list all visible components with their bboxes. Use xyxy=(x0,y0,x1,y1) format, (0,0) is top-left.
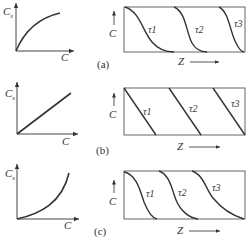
curve-label-3: τ3 xyxy=(231,98,240,109)
x-axis-label: C xyxy=(64,219,72,231)
profile-plot-c: τ1 τ2 τ3 C Z xyxy=(109,171,245,236)
profile-plot-b: τ1 τ2 τ3 C Z xyxy=(109,88,245,152)
figure: Cs C τ1 τ2 τ3 C Z (a) Cs C xyxy=(0,0,250,243)
curve-label-1: τ1 xyxy=(148,24,157,35)
x-axis-label: C xyxy=(62,135,70,147)
panel-b: Cs C τ1 τ2 τ3 C Z (b) xyxy=(5,82,245,157)
isotherm-plot-b: Cs C xyxy=(5,82,78,147)
caption-c: (c) xyxy=(94,225,107,238)
curve-label-2: τ2 xyxy=(195,24,204,35)
profile-y-label: C xyxy=(109,27,117,39)
isotherm-curve xyxy=(16,13,60,51)
isotherm-curve xyxy=(17,173,69,219)
profile-frame xyxy=(124,7,245,52)
y-axis-label: Cs xyxy=(5,87,15,102)
y-axis-label: Cs xyxy=(3,5,13,20)
y-axis-label: Cs xyxy=(5,167,15,182)
panel-c: Cs C τ1 τ2 τ3 C Z (c) xyxy=(5,164,245,238)
curve-label-2: τ2 xyxy=(189,103,198,114)
isotherm-plot-c: Cs C xyxy=(5,164,79,231)
profile-curve-3 xyxy=(192,171,244,219)
profile-x-label: Z xyxy=(178,55,185,67)
profile-x-label: Z xyxy=(177,224,184,236)
caption-b: (b) xyxy=(96,144,109,157)
profile-plot-a: τ1 τ2 τ3 C Z xyxy=(109,7,245,67)
panel-a: Cs C τ1 τ2 τ3 C Z (a) xyxy=(3,3,245,71)
profile-y-label: C xyxy=(109,108,117,120)
figure-canvas: Cs C τ1 τ2 τ3 C Z (a) Cs C xyxy=(0,0,250,243)
curve-label-1: τ1 xyxy=(143,106,152,117)
profile-y-label: C xyxy=(109,195,117,207)
curve-label-1: τ1 xyxy=(146,188,155,199)
isotherm-plot-a: Cs C xyxy=(3,3,74,63)
profile-curve-3 xyxy=(219,7,244,52)
x-axis-label: C xyxy=(61,51,69,63)
curve-label-3: τ3 xyxy=(212,182,221,193)
curve-label-3: τ3 xyxy=(234,18,243,29)
isotherm-curve xyxy=(17,93,71,134)
profile-x-label: Z xyxy=(177,140,184,152)
profile-curve-3 xyxy=(213,88,245,135)
caption-a: (a) xyxy=(97,58,110,71)
curve-label-2: τ2 xyxy=(178,187,187,198)
